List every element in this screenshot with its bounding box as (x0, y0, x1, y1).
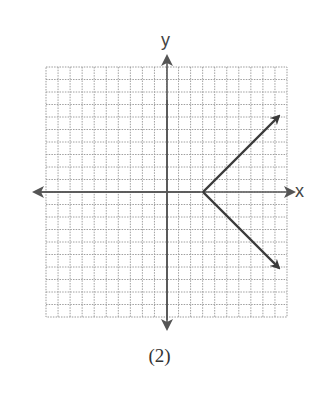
x-axis-label: x (295, 181, 304, 202)
y-axis-label: y (161, 30, 170, 51)
coordinate-plane (0, 0, 319, 395)
figure-caption: (2) (0, 345, 319, 367)
